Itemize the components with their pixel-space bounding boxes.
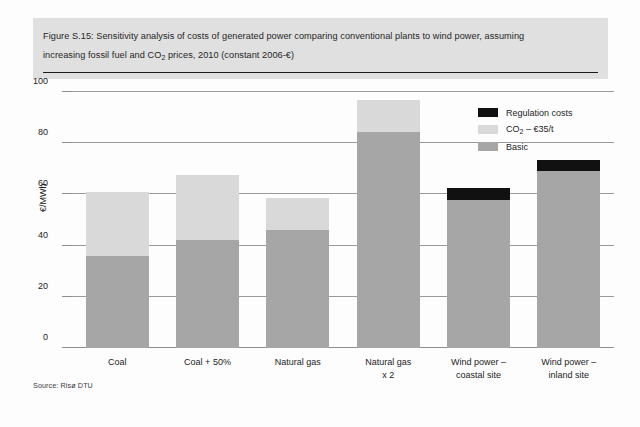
bar-stack[interactable] — [176, 175, 239, 348]
x-axis-category-label: Wind power –coastal site — [431, 356, 527, 382]
legend-label: CO2 – €35/t — [506, 124, 553, 135]
bar-segment[interactable] — [266, 198, 329, 230]
bar-segment[interactable] — [86, 256, 149, 348]
x-axis-category-label-line: x 2 — [340, 369, 436, 382]
figure-title-line-2: increasing fossil fuel and CO2 prices, 2… — [43, 46, 598, 67]
source-note: Source: Risø DTU — [33, 381, 93, 390]
figure-root: Figure S.15: Sensitivity analysis of cos… — [0, 0, 640, 427]
bar-segment[interactable] — [176, 240, 239, 348]
bar-segment[interactable] — [537, 171, 600, 348]
x-axis-category-label-line: Wind power – — [521, 356, 617, 369]
bar-segment[interactable] — [266, 230, 329, 348]
y-tick-label-20: 20 — [8, 281, 48, 291]
bar-group[interactable] — [176, 92, 239, 348]
x-axis-category-label: Coal + 50% — [160, 356, 256, 369]
legend-label-post: – €35/t — [523, 124, 553, 134]
legend-label: Basic — [506, 142, 528, 152]
x-axis-category-label-line: inland site — [521, 369, 617, 382]
x-axis-category-label: Coal — [69, 356, 165, 369]
bar-stack[interactable] — [86, 192, 149, 348]
figure-title-block: Figure S.15: Sensitivity analysis of cos… — [33, 18, 608, 79]
bar-segment[interactable] — [447, 188, 510, 200]
legend: Regulation costsCO2 – €35/tBasic — [478, 104, 610, 155]
x-axis-category-label-line: Wind power – — [431, 356, 527, 369]
bar-segment[interactable] — [537, 160, 600, 172]
legend-label: Regulation costs — [506, 108, 573, 118]
legend-swatch-icon — [478, 108, 498, 117]
legend-item[interactable]: CO2 – €35/t — [478, 121, 610, 138]
bar-stack[interactable] — [537, 160, 600, 348]
bar-stack[interactable] — [266, 198, 329, 348]
y-tick-label-60: 60 — [8, 178, 48, 188]
y-tick-label-80: 80 — [8, 127, 48, 137]
y-tick-label-0: 0 — [8, 332, 48, 342]
x-axis-category-label-line: Natural gas — [340, 356, 436, 369]
title-divider — [43, 72, 598, 73]
y-tick-label-100: 100 — [8, 76, 48, 86]
bar-stack[interactable] — [357, 100, 420, 348]
x-axis-category-label-line: coastal site — [431, 369, 527, 382]
y-tick-label-40: 40 — [8, 230, 48, 240]
x-axis-category-label-line: Coal + 50% — [160, 356, 256, 369]
x-axis-category-label-line: Natural gas — [250, 356, 346, 369]
x-axis-category-label: Natural gasx 2 — [340, 356, 436, 382]
legend-label-pre: CO — [506, 124, 520, 134]
bar-segment[interactable] — [357, 100, 420, 132]
bar-group[interactable] — [357, 92, 420, 348]
figure-title-line-1: Figure S.15: Sensitivity analysis of cos… — [43, 27, 598, 46]
bar-group[interactable] — [86, 92, 149, 348]
bar-segment[interactable] — [86, 192, 149, 256]
legend-swatch-icon — [478, 142, 498, 151]
x-axis-category-label-line: Coal — [69, 356, 165, 369]
bar-segment[interactable] — [447, 200, 510, 348]
bar-segment[interactable] — [357, 132, 420, 348]
legend-swatch-icon — [478, 125, 498, 134]
bar-stack[interactable] — [447, 188, 510, 348]
figure-title-line-2-pre: increasing fossil fuel and CO — [43, 50, 161, 60]
x-axis-category-label: Wind power –inland site — [521, 356, 617, 382]
bar-segment[interactable] — [176, 175, 239, 240]
figure-title-line-2-post: prices, 2010 (constant 2006-€) — [165, 50, 294, 60]
x-axis-category-label: Natural gas — [250, 356, 346, 369]
legend-item[interactable]: Basic — [478, 138, 610, 155]
bar-group[interactable] — [266, 92, 329, 348]
legend-item[interactable]: Regulation costs — [478, 104, 610, 121]
